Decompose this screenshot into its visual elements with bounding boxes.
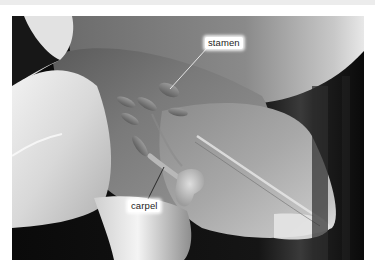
top-band: [0, 0, 375, 5]
carpel-label: carpel: [128, 200, 160, 212]
figure-page: stamen carpel: [0, 0, 375, 271]
left-petal: [12, 70, 111, 228]
lily-illustration: [12, 16, 364, 260]
lily-photo: stamen carpel: [12, 16, 364, 260]
stamen-label: stamen: [205, 37, 243, 49]
